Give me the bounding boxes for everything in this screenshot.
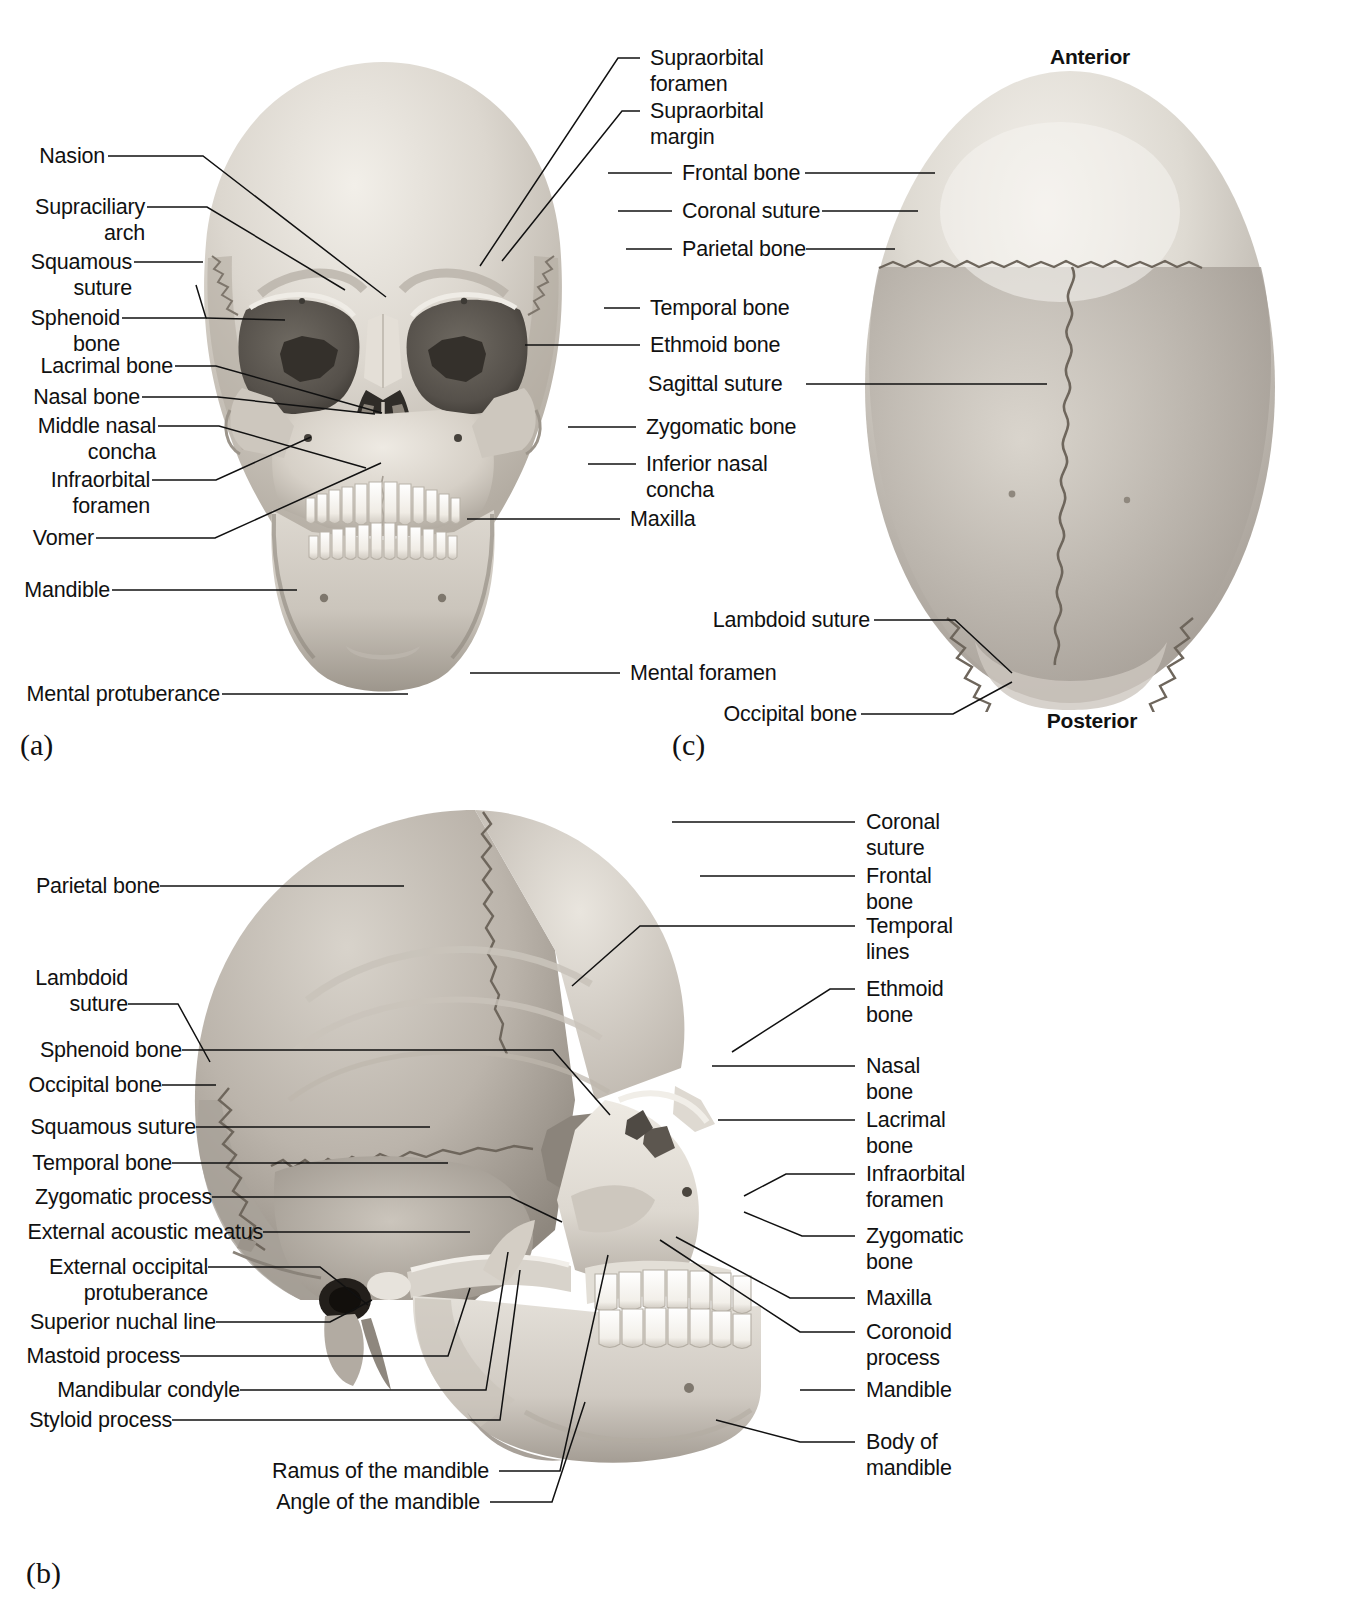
label-sphenoid-bone-a: Sphenoid bone: [0, 306, 120, 357]
label-coronoid-process: Coronoid process: [866, 1320, 1016, 1371]
panel-tag-a: (a): [20, 728, 53, 762]
label-temporal-bone-a: Temporal bone: [650, 296, 850, 322]
label-zygomatic-process: Zygomatic process: [0, 1185, 212, 1211]
label-frontal-bone-a: Frontal bone: [682, 161, 872, 187]
label-maxilla-a: Maxilla: [630, 507, 790, 533]
label-lambdoid-suture-c: Lambdoid suture: [640, 608, 870, 634]
label-ethmoid-bone-a: Ethmoid bone: [650, 333, 840, 359]
label-parietal-bone-b: Parietal bone: [0, 874, 160, 900]
label-zygomatic-bone-a: Zygomatic bone: [646, 415, 846, 441]
label-ethmoid-bone-b: Ethmoid bone: [866, 977, 1016, 1028]
label-mandible-b: Mandible: [866, 1378, 1016, 1404]
label-mental-protuberance: Mental protuberance: [0, 682, 220, 708]
superior-skull-illustration: [855, 62, 1285, 712]
label-mandibular-condyle: Mandibular condyle: [0, 1378, 240, 1404]
label-angle-of-the-mandible: Angle of the mandible: [220, 1490, 480, 1516]
skull-anatomy-figure: Nasion Supraciliary arch Squamous suture…: [0, 0, 1345, 1616]
label-ramus-of-the-mandible: Ramus of the mandible: [220, 1459, 489, 1485]
label-vomer: Vomer: [0, 526, 94, 552]
label-supraciliary-arch: Supraciliary arch: [0, 195, 145, 246]
label-supraorbital-margin: Supraorbital margin: [650, 99, 840, 150]
label-mastoid-process: Mastoid process: [0, 1344, 180, 1370]
label-nasal-bone-a: Nasal bone: [0, 385, 140, 411]
label-coronal-suture-b: Coronal suture: [866, 810, 1016, 861]
label-styloid-process: Styloid process: [0, 1408, 172, 1434]
label-squamous-suture-b: Squamous suture: [0, 1115, 196, 1141]
label-zygomatic-bone-b: Zygomatic bone: [866, 1224, 1026, 1275]
label-maxilla-b: Maxilla: [866, 1286, 1016, 1312]
label-lacrimal-bone-a: Lacrimal bone: [0, 354, 173, 380]
panel-tag-b: (b): [26, 1556, 61, 1590]
label-temporal-lines: Temporal lines: [866, 914, 1016, 965]
label-sagittal-suture: Sagittal suture: [648, 372, 858, 398]
label-posterior: Posterior: [1012, 708, 1172, 734]
label-supraorbital-foramen: Supraorbital foramen: [650, 46, 840, 97]
label-middle-nasal-concha: Middle nasal concha: [0, 414, 156, 465]
label-external-occipital-protuberance: External occipital protuberance: [0, 1255, 208, 1306]
label-sphenoid-bone-b: Sphenoid bone: [0, 1038, 182, 1064]
label-coronal-suture-a: Coronal suture: [682, 199, 882, 225]
label-nasion: Nasion: [0, 144, 105, 170]
label-infraorbital-foramen-a: Infraorbital foramen: [0, 468, 150, 519]
label-parietal-bone-a: Parietal bone: [682, 237, 872, 263]
label-occipital-bone-b: Occipital bone: [0, 1073, 162, 1099]
panel-tag-c: (c): [672, 728, 705, 762]
label-anterior: Anterior: [1010, 44, 1170, 70]
label-temporal-bone-b: Temporal bone: [0, 1151, 172, 1177]
label-external-acoustic-meatus: External acoustic meatus: [0, 1220, 263, 1246]
label-inferior-nasal-concha: Inferior nasal concha: [646, 452, 826, 503]
lateral-skull-illustration: [175, 800, 875, 1500]
label-nasal-bone-b: Nasal bone: [866, 1054, 1016, 1105]
label-mandible-a: Mandible: [0, 578, 110, 604]
label-squamous-suture-a: Squamous suture: [0, 250, 132, 301]
anterior-skull-illustration: [168, 58, 598, 718]
label-infraorbital-foramen-b: Infraorbital foramen: [866, 1162, 1036, 1213]
label-occipital-bone-c: Occipital bone: [640, 702, 857, 728]
label-lacrimal-bone-b: Lacrimal bone: [866, 1108, 1016, 1159]
label-lambdoid-suture-b: Lambdoid suture: [0, 966, 128, 1017]
label-mental-foramen: Mental foramen: [630, 661, 850, 687]
label-frontal-bone-b: Frontal bone: [866, 864, 1016, 915]
label-superior-nuchal-line: Superior nuchal line: [0, 1310, 216, 1336]
label-body-of-mandible: Body of mandible: [866, 1430, 1016, 1481]
